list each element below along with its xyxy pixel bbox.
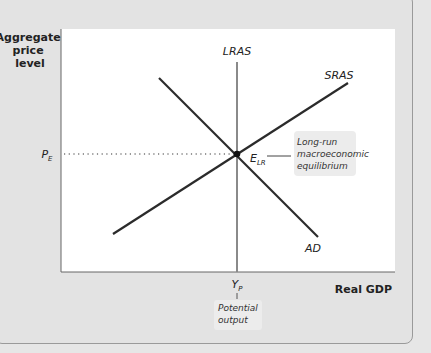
y-axis-label: Aggregate price level xyxy=(0,31,65,70)
ad-as-chart: Aggregate price level Real GDP PE LRAS A… xyxy=(0,0,431,353)
lras-label: LRAS xyxy=(223,45,251,58)
pe-label: PE xyxy=(41,148,53,163)
equilibrium-point xyxy=(234,151,241,158)
x-axis-label: Real GDP xyxy=(335,283,392,296)
yp-label: YP xyxy=(232,278,244,293)
sras-label: SRAS xyxy=(324,69,353,82)
ad-label: AD xyxy=(304,242,321,255)
